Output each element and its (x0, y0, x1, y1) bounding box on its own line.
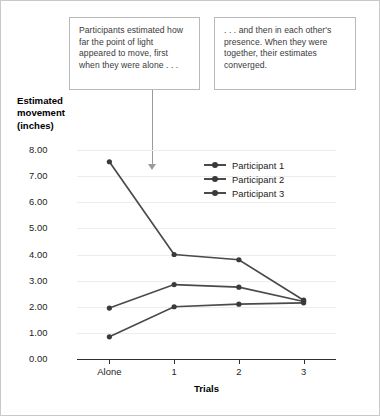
x-axis-tick (304, 360, 305, 364)
data-point-marker (172, 304, 177, 309)
y-axis-tick-label: 2.00 (29, 301, 69, 312)
legend-item: Participant 3 (204, 186, 284, 200)
data-point-marker (107, 305, 112, 310)
legend-marker-icon (204, 188, 226, 198)
y-axis-tick-label: 7.00 (29, 170, 69, 181)
x-axis-title: Trials (77, 383, 336, 394)
x-axis-tick-label: 2 (209, 366, 269, 377)
y-axis-tick-label: 0.00 (29, 353, 69, 364)
x-axis-tick (239, 360, 240, 364)
x-axis-tick (174, 360, 175, 364)
x-axis-tick-label: Alone (79, 366, 139, 377)
data-point-marker (236, 257, 241, 262)
chart-figure: Participants estimated how far the point… (0, 0, 380, 416)
x-axis-tick (109, 360, 110, 364)
data-point-marker (107, 334, 112, 339)
series-line (109, 285, 303, 309)
legend-marker-icon (204, 160, 226, 170)
y-axis-tick-label: 4.00 (29, 249, 69, 260)
data-point-marker (107, 159, 112, 164)
y-axis-tick-label: 5.00 (29, 222, 69, 233)
data-point-marker (172, 282, 177, 287)
x-axis-tick-label: 3 (274, 366, 334, 377)
callout-left: Participants estimated how far the point… (69, 17, 200, 90)
legend-marker-icon (204, 174, 226, 184)
data-point-marker (236, 302, 241, 307)
y-axis-tick-label: 8.00 (29, 144, 69, 155)
legend-item-label: Participant 3 (232, 188, 284, 199)
y-axis-tick-label: 1.00 (29, 327, 69, 338)
y-axis-tick-label: 3.00 (29, 275, 69, 286)
y-axis-tick-label: 6.00 (29, 196, 69, 207)
y-axis-title: Estimated movement (inches) (17, 95, 99, 132)
legend: Participant 1Participant 2Participant 3 (204, 158, 284, 200)
callout-right: . . . and then in each other's presence.… (214, 17, 356, 90)
legend-item-label: Participant 2 (232, 174, 284, 185)
x-axis-line (77, 359, 336, 360)
data-point-marker (172, 252, 177, 257)
data-point-marker (236, 285, 241, 290)
legend-item-label: Participant 1 (232, 160, 284, 171)
series-line (109, 303, 303, 337)
data-point-marker (301, 300, 306, 305)
legend-item: Participant 2 (204, 172, 284, 186)
x-axis-tick-label: 1 (144, 366, 204, 377)
legend-item: Participant 1 (204, 158, 284, 172)
